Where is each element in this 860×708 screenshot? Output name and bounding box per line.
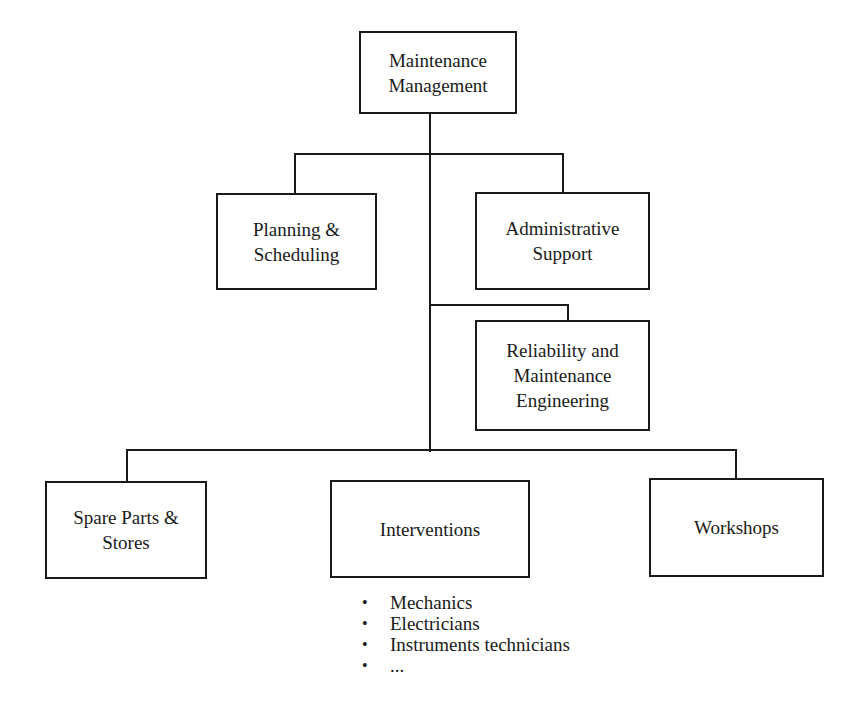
list-item: •Instruments technicians xyxy=(362,634,570,655)
interventions-box: Interventions xyxy=(330,480,530,578)
workshops-box: Workshops xyxy=(649,478,824,577)
root-trunk-line xyxy=(429,112,431,452)
planning-scheduling-box: Planning & Scheduling xyxy=(216,193,377,290)
reliability-engineering-label: Reliability and Maintenance Engineering xyxy=(506,338,618,413)
list-item: •... xyxy=(362,655,570,676)
spare-parts-stores-label: Spare Parts & Stores xyxy=(73,505,179,555)
list-item: •Electricians xyxy=(362,613,570,634)
planning-scheduling-label: Planning & Scheduling xyxy=(253,217,340,267)
reliability-horizontal-line xyxy=(429,304,569,306)
reliability-drop-line xyxy=(567,304,569,321)
workshops-label: Workshops xyxy=(694,515,779,540)
admin-drop-line xyxy=(562,153,564,194)
administrative-support-box: Administrative Support xyxy=(475,192,650,290)
maintenance-management-box: Maintenance Management xyxy=(359,31,517,114)
bullet-icon: • xyxy=(362,634,368,655)
level1-horizontal-line xyxy=(294,153,564,155)
bullet-icon: • xyxy=(362,613,368,634)
interventions-staff-list: •Mechanics •Electricians •Instruments te… xyxy=(362,592,570,676)
spare-parts-drop-line xyxy=(126,449,128,482)
planning-drop-line xyxy=(294,153,296,195)
bullet-icon: • xyxy=(362,655,368,676)
reliability-engineering-box: Reliability and Maintenance Engineering xyxy=(475,320,650,431)
level3-horizontal-line xyxy=(126,449,737,451)
spare-parts-stores-box: Spare Parts & Stores xyxy=(45,481,207,579)
maintenance-management-label: Maintenance Management xyxy=(388,48,487,98)
list-item: •Mechanics xyxy=(362,592,570,613)
bullet-icon: • xyxy=(362,592,368,613)
workshops-drop-line xyxy=(735,449,737,480)
interventions-label: Interventions xyxy=(380,517,480,542)
administrative-support-label: Administrative Support xyxy=(506,216,620,266)
